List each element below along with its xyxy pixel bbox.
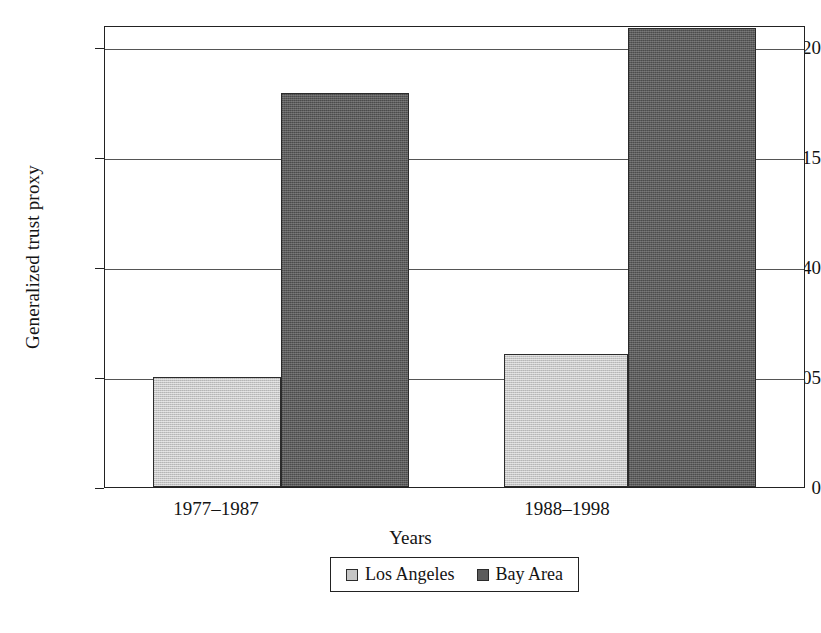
y-tick-mark-1 bbox=[95, 158, 104, 159]
bar-bay-area-1977-1987[interactable] bbox=[281, 93, 409, 487]
legend-entry-bay-area[interactable]: Bay Area bbox=[477, 564, 563, 585]
bar-los-angeles-1988-1998[interactable] bbox=[504, 354, 628, 487]
legend-label-bay-area: Bay Area bbox=[496, 564, 563, 585]
y-tick-mark-4 bbox=[95, 488, 104, 489]
bar-los-angeles-1977-1987[interactable] bbox=[153, 377, 281, 487]
legend-entry-los-angeles[interactable]: Los Angeles bbox=[346, 564, 455, 585]
legend-swatch-los-angeles bbox=[346, 569, 358, 581]
bar-bay-area-1988-1998[interactable] bbox=[628, 28, 756, 487]
y-axis-title: Generalized trust proxy bbox=[16, 26, 50, 488]
bar-chart-figure: Generalized trust proxy 0.20 0.15 0.40 0… bbox=[0, 0, 821, 633]
x-axis-title: Years bbox=[0, 527, 821, 549]
y-tick-mark-3 bbox=[95, 378, 104, 379]
y-tick-mark-2 bbox=[95, 268, 104, 269]
y-tick-mark-0 bbox=[95, 48, 104, 49]
x-tick-label-1977-1987: 1977–1987 bbox=[96, 498, 336, 520]
legend-swatch-bay-area bbox=[477, 569, 489, 581]
chart-legend: Los Angeles Bay Area bbox=[330, 557, 579, 592]
plot-area bbox=[104, 26, 805, 488]
legend-label-los-angeles: Los Angeles bbox=[365, 564, 455, 585]
x-tick-label-1988-1998: 1988–1998 bbox=[447, 498, 687, 520]
